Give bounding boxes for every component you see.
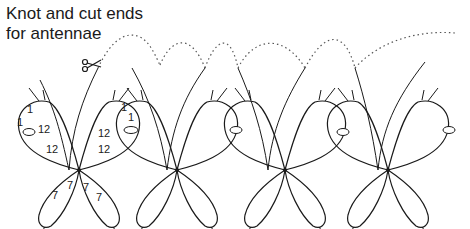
count-picot-right-a: 1 (121, 101, 127, 113)
dotted-thread-arcs (98, 32, 455, 68)
count-upper-right-b: 12 (98, 143, 110, 155)
count-lower-right-b: 7 (96, 191, 102, 203)
count-picot-left-a: 1 (27, 103, 33, 115)
count-upper-left-b: 12 (46, 143, 58, 155)
butterfly-3 (224, 88, 345, 229)
count-picot-right-b: 1 (128, 111, 134, 123)
count-upper-left-a: 12 (38, 123, 50, 135)
scissors-icon (83, 60, 102, 72)
count-lower-left-a: 7 (52, 189, 58, 201)
count-picot-left-b: 1 (17, 116, 23, 128)
count-lower-right-a: 7 (83, 181, 89, 193)
count-lower-left-b: 7 (67, 179, 73, 191)
join-rings (23, 127, 455, 136)
butterfly-4 (327, 88, 448, 229)
tatting-diagram: 12 12 12 12 7 7 7 7 1 1 1 1 (0, 0, 470, 229)
count-upper-right-a: 12 (98, 127, 110, 139)
